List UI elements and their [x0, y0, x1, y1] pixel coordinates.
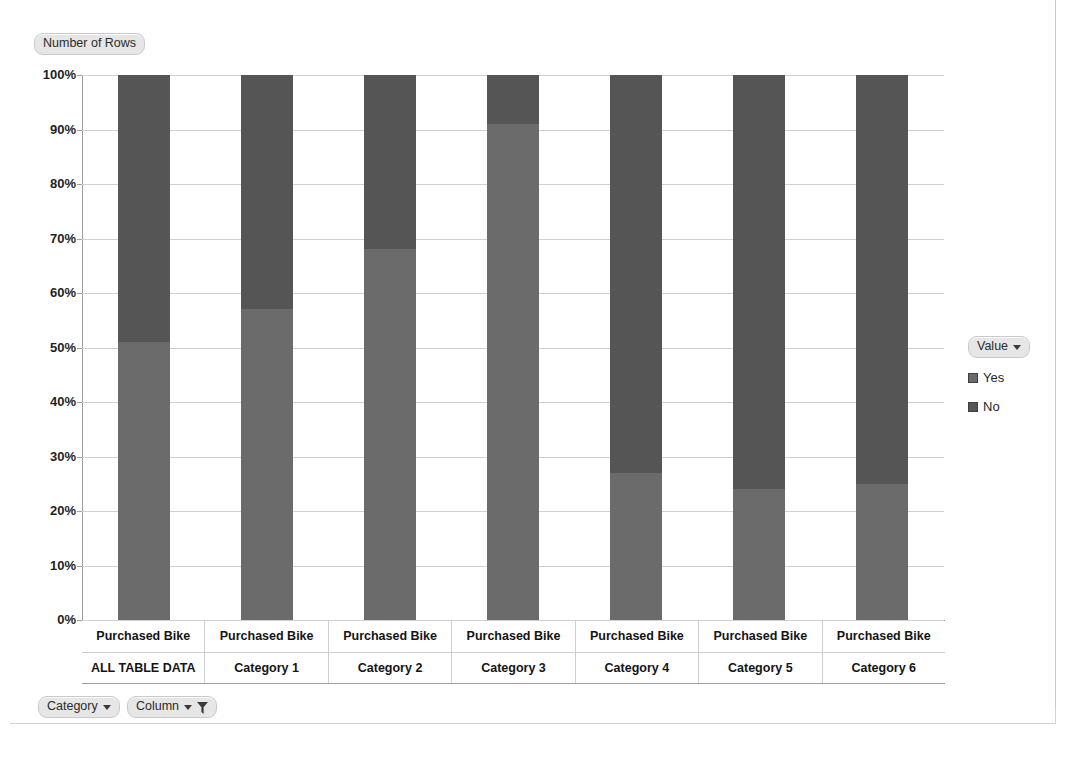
y-axis-tick-label: 100%: [18, 68, 76, 81]
y-axis-tick-label: 70%: [18, 232, 76, 245]
field-button-category-label: Category: [47, 699, 98, 714]
category-axis-field-label: Purchased Bike: [452, 621, 574, 653]
category-axis-item-label: Category 4: [576, 653, 698, 684]
y-axis-tick: [77, 348, 82, 349]
field-button-category[interactable]: Category: [38, 696, 120, 718]
legend-item: No: [968, 399, 1046, 414]
bar-segment-yes[interactable]: [364, 249, 416, 620]
y-axis-tick: [77, 239, 82, 240]
stacked-bar[interactable]: [487, 75, 539, 620]
category-axis-bottom-rule: [82, 683, 945, 684]
y-axis-tick: [77, 511, 82, 512]
category-axis-item-label: Category 6: [823, 653, 945, 684]
field-button-number-of-rows-label: Number of Rows: [43, 36, 136, 51]
legend-item-label: Yes: [983, 370, 1004, 385]
stacked-bar[interactable]: [856, 75, 908, 620]
bar-segment-no[interactable]: [487, 75, 539, 124]
bar-segment-no[interactable]: [610, 75, 662, 473]
legend-item: Yes: [968, 370, 1046, 385]
category-axis-field-label: Purchased Bike: [576, 621, 698, 653]
stacked-bar[interactable]: [610, 75, 662, 620]
field-button-value[interactable]: Value: [968, 336, 1030, 358]
category-axis-cell: Purchased BikeCategory 6: [823, 621, 945, 683]
category-axis-cell: Purchased BikeCategory 4: [576, 621, 699, 683]
chevron-down-icon: [103, 705, 111, 710]
category-axis-field-label: Purchased Bike: [823, 621, 945, 653]
stacked-bar[interactable]: [364, 75, 416, 620]
chart-frame-divider: [1055, 0, 1056, 708]
bar-segment-yes[interactable]: [610, 473, 662, 620]
legend-item-label: No: [983, 399, 1000, 414]
filter-funnel-icon: [197, 702, 208, 714]
category-axis-item-label: Category 1: [205, 653, 327, 684]
category-axis-field-label: Purchased Bike: [205, 621, 327, 653]
y-axis-tick-label: 30%: [18, 450, 76, 463]
legend: Value YesNo: [968, 336, 1046, 428]
chevron-down-icon: [184, 705, 192, 710]
y-axis-tick-label: 50%: [18, 341, 76, 354]
y-axis-tick-label: 80%: [18, 177, 76, 190]
bar-segment-yes[interactable]: [856, 484, 908, 620]
legend-color-swatch: [968, 373, 978, 383]
field-button-column-label: Column: [136, 699, 179, 714]
y-axis-tick: [77, 457, 82, 458]
category-axis: Purchased BikeALL TABLE DATAPurchased Bi…: [82, 621, 945, 683]
bar-segment-no[interactable]: [364, 75, 416, 249]
legend-color-swatch: [968, 402, 978, 412]
field-button-column[interactable]: Column: [127, 696, 217, 718]
bar-segment-no[interactable]: [118, 75, 170, 342]
y-axis-tick-label: 20%: [18, 504, 76, 517]
category-axis-field-label: Purchased Bike: [82, 621, 204, 653]
y-axis-labels: 100%90%80%70%60%50%40%30%20%10%0%: [18, 75, 76, 621]
y-axis-tick: [77, 566, 82, 567]
category-axis-item-label: Category 2: [329, 653, 451, 684]
category-axis-item-label: Category 3: [452, 653, 574, 684]
stacked-bar[interactable]: [118, 75, 170, 620]
bar-segment-no[interactable]: [733, 75, 785, 489]
category-axis-field-label: Purchased Bike: [699, 621, 821, 653]
bar-segment-yes[interactable]: [118, 342, 170, 620]
legend-title-label: Value: [977, 339, 1008, 354]
bar-segment-yes[interactable]: [241, 309, 293, 620]
field-button-number-of-rows[interactable]: Number of Rows: [34, 33, 145, 55]
y-axis-tick: [77, 75, 82, 76]
category-axis-item-label: Category 5: [699, 653, 821, 684]
bar-segment-yes[interactable]: [733, 489, 785, 620]
y-axis-tick-label: 90%: [18, 123, 76, 136]
category-axis-field-label: Purchased Bike: [329, 621, 451, 653]
y-axis-tick: [77, 184, 82, 185]
y-axis-tick-label: 10%: [18, 559, 76, 572]
y-axis-tick-label: 0%: [18, 613, 76, 626]
category-axis-item-label: ALL TABLE DATA: [82, 653, 204, 684]
legend-entries: YesNo: [968, 370, 1046, 414]
stacked-bar[interactable]: [241, 75, 293, 620]
chevron-down-icon: [1013, 345, 1021, 350]
category-axis-cell: Purchased BikeCategory 2: [329, 621, 452, 683]
category-axis-cell: Purchased BikeALL TABLE DATA: [82, 621, 205, 683]
category-axis-cell: Purchased BikeCategory 3: [452, 621, 575, 683]
y-axis-tick-label: 60%: [18, 286, 76, 299]
bar-segment-no[interactable]: [856, 75, 908, 484]
y-axis-tick: [77, 402, 82, 403]
y-axis-tick: [77, 130, 82, 131]
y-axis-tick-label: 40%: [18, 395, 76, 408]
plot-area: [82, 75, 944, 620]
stacked-bar[interactable]: [733, 75, 785, 620]
category-axis-cell: Purchased BikeCategory 5: [699, 621, 822, 683]
bar-segment-no[interactable]: [241, 75, 293, 309]
y-axis-tick: [77, 293, 82, 294]
category-axis-cell: Purchased BikeCategory 1: [205, 621, 328, 683]
bar-segment-yes[interactable]: [487, 124, 539, 620]
